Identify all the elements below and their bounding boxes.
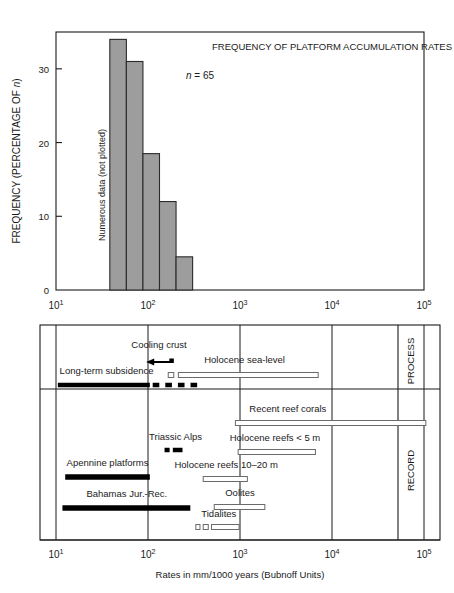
range-item: Holocene reefs < 5 m (230, 432, 321, 455)
range-item-label: Cooling crust (131, 339, 187, 350)
range-item: Bahamas Jur.-Rec. (62, 488, 190, 511)
x-tick-label: 105 (416, 298, 431, 311)
range-section-record: Recent reef coralsTriassic AlpsHolocene … (62, 403, 425, 530)
section-label-record: RECORD (405, 450, 416, 491)
triassic-alps-segment (165, 448, 170, 453)
x-tick-label: 104 (324, 298, 339, 311)
range-item-label: Oolites (225, 487, 255, 498)
x-tick-label: 104 (324, 547, 339, 560)
histogram-bar (143, 154, 160, 290)
figure-container: 0102030FREQUENCY (PERCENTAGE OF n)FREQUE… (0, 0, 454, 593)
histogram-bar (110, 39, 127, 290)
range-item-label: Tidalites (201, 508, 236, 519)
y-tick-label: 20 (38, 138, 49, 149)
range-item-label: Holocene reefs 10–20 m (174, 459, 278, 470)
y-tick-label: 10 (38, 211, 49, 222)
range-section-process: Cooling crustHolocene sea-levelLong-term… (58, 339, 318, 387)
range-item: Recent reef corals (235, 403, 425, 426)
range-item-label: Long-term subsidence (60, 365, 154, 376)
range-item: Holocene reefs 10–20 m (174, 459, 278, 482)
range-item-label: Holocene reefs < 5 m (230, 432, 321, 443)
range-item-label: Triassic Alps (149, 431, 202, 442)
range-item-label: Holocene sea-level (204, 354, 285, 365)
x-tick-label: 103 (232, 298, 247, 311)
histogram-title: FREQUENCY OF PLATFORM ACCUMULATION RATES (212, 41, 452, 52)
histogram-y-axis: 0102030 (38, 64, 62, 296)
ranges-panel: PROCESSRECORDCooling crustHolocene sea-l… (40, 325, 440, 580)
histogram-bar (160, 202, 177, 290)
triassic-alps-segment (173, 448, 183, 453)
ranges-x-axis: 101102103104105Rates in mm/1000 years (B… (40, 540, 440, 580)
range-item: Triassic Alps (149, 431, 202, 452)
x-tick-label: 102 (140, 547, 155, 560)
x-tick-label: 103 (232, 547, 247, 560)
range-open-bar (178, 373, 318, 378)
tidalites-segment (211, 525, 239, 530)
range-item-label: Bahamas Jur.-Rec. (86, 488, 167, 499)
section-label-process: PROCESS (405, 338, 416, 384)
range-item: Cooling crust (131, 339, 187, 366)
x-tick-label: 105 (416, 547, 431, 560)
y-tick-label: 0 (44, 285, 49, 296)
sample-size-annotation: n = 65 (186, 70, 215, 81)
histogram-panel: 0102030FREQUENCY (PERCENTAGE OF n)FREQUE… (11, 32, 452, 311)
histogram-bar (176, 257, 193, 290)
subsidence-dashed-segment (165, 383, 172, 388)
subsidence-dashed-segment (153, 383, 160, 388)
range-item: Long-term subsidence (58, 365, 197, 387)
histogram-bar (126, 61, 143, 290)
range-open-marker (168, 373, 174, 378)
x-axis-title: Rates in mm/1000 years (Bubnoff Units) (156, 569, 325, 580)
tidalites-segment (203, 525, 208, 530)
range-open-bar (235, 421, 425, 426)
x-tick-label: 102 (140, 298, 155, 311)
range-item: Tidalites (196, 508, 239, 530)
range-solid-bar (62, 505, 190, 511)
x-tick-label: 101 (48, 298, 63, 311)
scientific-figure: 0102030FREQUENCY (PERCENTAGE OF n)FREQUE… (0, 0, 454, 593)
histogram-bars (110, 39, 193, 290)
x-tick-label: 101 (48, 547, 63, 560)
histogram-x-axis: 101102103104105 (48, 298, 431, 311)
range-open-bar (238, 450, 315, 455)
range-solid-bar (65, 474, 150, 480)
numerous-data-note: Numerous data (not plotted) (97, 129, 107, 241)
subsidence-dashed-segment (178, 383, 185, 388)
y-tick-label: 30 (38, 64, 49, 75)
range-item: Apennine platforms (65, 457, 150, 480)
tidalites-segment (196, 525, 200, 530)
range-item-label: Apennine platforms (67, 457, 149, 468)
y-axis-title: FREQUENCY (PERCENTAGE OF n) (11, 78, 22, 243)
range-item: Holocene sea-level (168, 354, 318, 378)
cooling-crust-end-marker (169, 359, 174, 364)
range-open-bar (203, 477, 247, 482)
subsidence-solid-segment (58, 383, 150, 388)
range-item-label: Recent reef corals (249, 403, 326, 414)
subsidence-dashed-segment (191, 383, 198, 388)
